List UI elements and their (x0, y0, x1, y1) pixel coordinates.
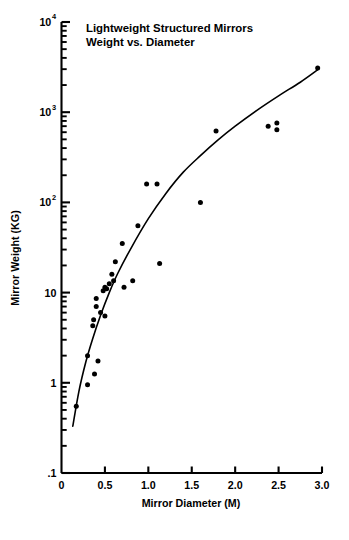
data-point (266, 124, 271, 129)
data-point (94, 296, 99, 301)
x-tick-label: 0 (59, 479, 65, 491)
x-tick-label: 2.5 (271, 479, 286, 491)
data-point (92, 372, 97, 377)
chart-title-line1: Lightweight Structured Mirrors (86, 22, 253, 34)
data-point (274, 127, 279, 132)
data-point (130, 278, 135, 283)
y-tick-label: 104 (39, 12, 56, 28)
svg-text:10: 10 (45, 287, 57, 299)
svg-text:10: 10 (39, 106, 51, 118)
data-point (98, 310, 103, 315)
svg-text:2: 2 (52, 193, 56, 202)
svg-text:10: 10 (39, 16, 51, 28)
data-point (198, 200, 203, 205)
chart-figure: .111010210310400.51.01.52.02.53.0Lightwe… (0, 0, 349, 540)
y-tick-label: 102 (39, 193, 56, 209)
y-tick-label: 103 (39, 103, 56, 119)
data-point (90, 323, 95, 328)
y-tick-label: .1 (48, 467, 57, 479)
data-point (107, 281, 112, 286)
data-point (155, 181, 160, 186)
data-point (274, 120, 279, 125)
y-tick-label: 10 (45, 287, 57, 299)
data-point (85, 353, 90, 358)
data-point (120, 241, 125, 246)
data-point (74, 404, 79, 409)
svg-text:3: 3 (52, 103, 56, 112)
data-point (214, 128, 219, 133)
data-point (122, 285, 127, 290)
data-point (109, 272, 114, 277)
svg-text:4: 4 (52, 12, 57, 21)
svg-text:.1: .1 (48, 467, 57, 479)
data-point (91, 317, 96, 322)
x-tick-label: 1.0 (141, 479, 156, 491)
data-point (102, 314, 107, 319)
data-point (104, 286, 109, 291)
trend-line-curve (73, 70, 318, 426)
data-point (315, 65, 320, 70)
svg-text:10: 10 (39, 196, 51, 208)
chart-canvas: .111010210310400.51.01.52.02.53.0Lightwe… (0, 0, 349, 540)
x-tick-label: 1.5 (184, 479, 199, 491)
x-axis-title: Mirror Diameter (M) (142, 497, 241, 509)
chart-title-line2: Weight vs. Diameter (86, 36, 195, 48)
scatter-series (74, 65, 320, 408)
data-point (95, 358, 100, 363)
svg-text:1: 1 (51, 377, 57, 389)
data-point (157, 261, 162, 266)
y-tick-label: 1 (51, 377, 57, 389)
x-tick-label: 2.0 (228, 479, 243, 491)
data-point (111, 278, 116, 283)
data-point (144, 181, 149, 186)
data-point (85, 382, 90, 387)
data-point (113, 259, 118, 264)
x-tick-label: 3.0 (315, 479, 330, 491)
data-point (94, 304, 99, 309)
y-axis-title: Mirror Weight (KG) (9, 210, 21, 306)
x-tick-label: 0.5 (97, 479, 112, 491)
data-point (135, 223, 140, 228)
